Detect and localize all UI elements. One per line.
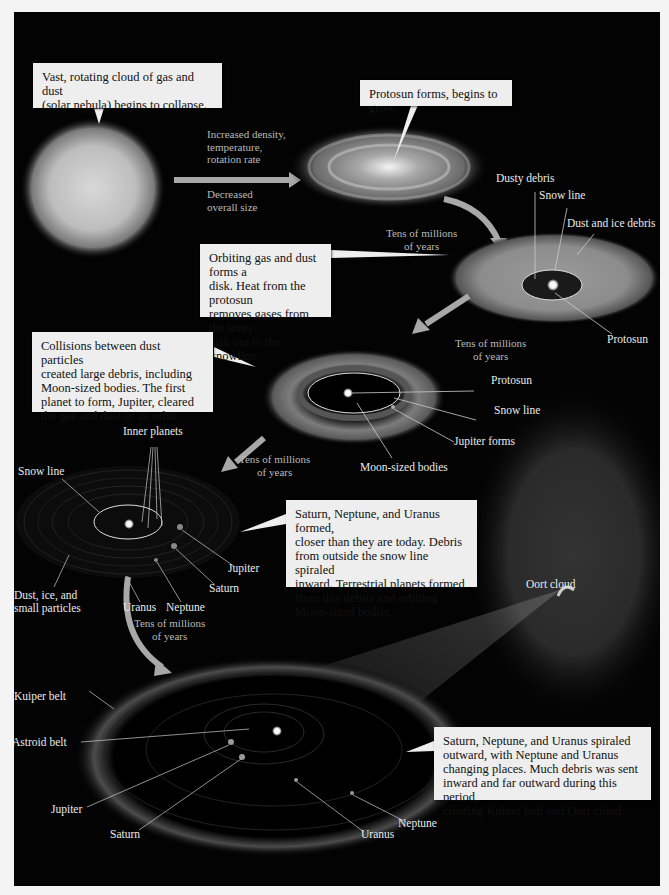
label-moon-sized-bodies: Moon-sized bodies <box>360 461 448 474</box>
oort-cloud <box>464 382 660 722</box>
label-jupiter-stage6: Jupiter <box>51 803 82 816</box>
callout-stage-4: Collisions between dust particles create… <box>32 332 213 412</box>
transition-label-stage6: Tens of millions of years <box>134 617 205 642</box>
label-astroid-belt: Astroid belt <box>14 736 67 749</box>
label-jupiter-forms: Jupiter forms <box>454 435 515 448</box>
label-protosun-stage3: Protosun <box>607 333 648 346</box>
callout-stage-5: Saturn, Neptune, and Uranus formed, clos… <box>286 500 477 587</box>
solar-nebula-cloud <box>21 118 165 258</box>
label-oort-cloud: Oort cloud <box>526 578 576 591</box>
label-dust-and-ice-debris: Dust and ice debris <box>567 217 655 230</box>
arrow-stage1-to-2 <box>174 172 301 188</box>
label-snow-line-stage5: Snow line <box>18 465 64 478</box>
label-kuiper-belt: Kuiper belt <box>14 690 66 703</box>
callout-stage-2: Protosun forms, begins to grow. <box>360 80 512 106</box>
label-neptune-stage5: Neptune <box>166 601 205 614</box>
protosun-swirl <box>289 125 489 209</box>
label-jupiter-stage5: Jupiter <box>228 562 259 575</box>
label-snow-line-stage3: Snow line <box>539 189 585 202</box>
label-neptune-stage6: Neptune <box>398 817 437 830</box>
arrow-stage3-to-4 <box>426 296 469 324</box>
label-uranus-stage5: Uranus <box>123 601 156 614</box>
solar-system-formation-diagram: Vast, rotating cloud of gas and dust (so… <box>14 12 660 886</box>
label-dusty-debris: Dusty debris <box>496 172 554 185</box>
label-saturn-stage5: Saturn <box>209 582 239 595</box>
label-snow-line-stage4: Snow line <box>494 404 540 417</box>
label-dust-ice-small-particles: Dust, ice, and small particles <box>14 589 81 614</box>
label-saturn-stage6: Saturn <box>110 828 140 841</box>
transition-label-decreased: Decreased overall size <box>207 188 257 213</box>
callout-stage-3: Orbiting gas and dust forms a disk. Heat… <box>200 244 331 317</box>
transition-label-stage5: Tens of millions of years <box>239 453 310 478</box>
label-protosun-stage4: Protosun <box>491 374 532 387</box>
transition-label-stage3: Tens of millions of years <box>386 227 457 252</box>
label-inner-planets: Inner planets <box>123 425 183 438</box>
transition-label-increased: Increased density, temperature, rotation… <box>207 128 286 166</box>
callout-stage-6: Saturn, Neptune, and Uranus spiraled out… <box>434 727 651 800</box>
transition-label-stage4: Tens of millions of years <box>455 337 526 362</box>
callout-stage-1: Vast, rotating cloud of gas and dust (so… <box>33 63 222 108</box>
label-uranus-stage6: Uranus <box>361 828 394 841</box>
